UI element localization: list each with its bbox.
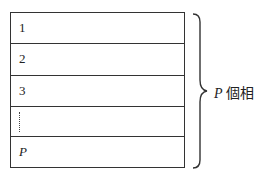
phase-stack: 1 2 3 P [10,12,185,168]
phase-count-text: 個相 [226,86,254,101]
phase-label: P [19,144,27,160]
phase-count-label: P 個相 [214,82,254,102]
vertical-ellipsis-icon [19,112,22,132]
right-brace-icon [190,12,214,170]
phase-row-1: 1 [11,13,184,44]
phase-row-2: 2 [11,44,184,76]
phase-row-3: 3 [11,76,184,107]
phase-row-ellipsis [11,107,184,137]
phase-label: 1 [19,20,26,36]
phase-count-variable: P [214,86,223,101]
phase-label: 2 [19,51,26,67]
phase-label: 3 [19,83,26,99]
phase-row-p: P [11,137,184,169]
